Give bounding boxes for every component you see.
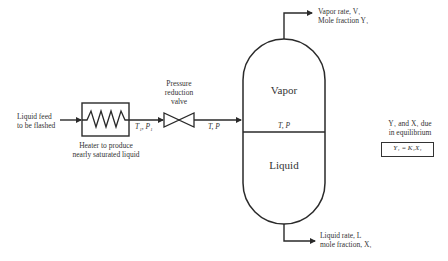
vapor-mole-fraction-text: Mole fraction Y₁ — [318, 16, 369, 25]
valve-label-line1: Pressure — [155, 79, 203, 88]
vapor-label: Vapor — [243, 84, 325, 96]
heater-coil-icon — [82, 111, 129, 127]
liquid-outlet-line — [284, 224, 315, 241]
heater-label: Heater to produce nearly saturated liqui… — [70, 141, 142, 159]
feed-label-line1: Liquid feed — [17, 112, 55, 121]
valve-label-line3: valve — [155, 97, 203, 106]
valve-outlet-state: T, P — [208, 122, 220, 131]
valve-label-line2: reduction — [155, 88, 203, 97]
liquid-outlet-label: Liquid rate, L mole fraction, X₁ — [320, 231, 372, 249]
equilibrium-note-line1: Y₁ and X₁ due — [372, 119, 448, 128]
interface-state: T, P — [243, 121, 325, 130]
heater-label-line2: nearly saturated liquid — [70, 150, 142, 159]
vapor-outlet-line — [284, 13, 312, 39]
equilibrium-note: Y₁ and X₁ due in equilibrium — [372, 119, 448, 137]
liquid-label: Liquid — [243, 159, 325, 171]
liquid-rate-text: Liquid rate, L — [320, 231, 372, 240]
feed-label-line2: to be flashed — [17, 121, 55, 130]
vapor-rate-text: Vapor rate, V₁ — [318, 7, 369, 16]
equilibrium-equation: Y₁ = K₁X₁ — [393, 144, 421, 152]
liquid-mole-fraction-text: mole fraction, X₁ — [320, 240, 372, 249]
feed-label: Liquid feed to be flashed — [17, 112, 55, 130]
equilibrium-note-line2: in equilibrium — [372, 128, 448, 137]
vapor-outlet-label: Vapor rate, V₁ Mole fraction Y₁ — [318, 7, 369, 25]
heater-label-line1: Heater to produce — [70, 141, 142, 150]
heater-box — [82, 103, 129, 136]
valve-label: Pressure reduction valve — [155, 79, 203, 106]
equilibrium-equation-box: Y₁ = K₁X₁ — [381, 142, 434, 157]
pressure-valve-icon — [164, 113, 194, 127]
heater-outlet-state: T₁, P₁ — [135, 122, 153, 131]
